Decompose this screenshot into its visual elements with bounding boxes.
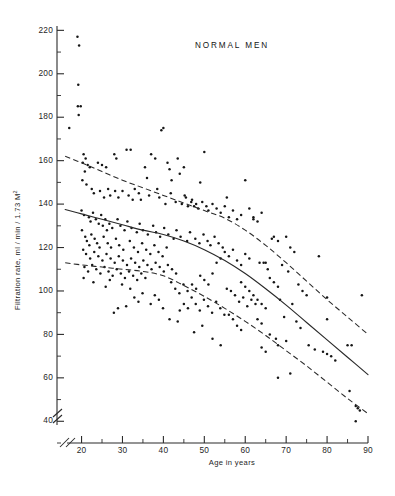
data-point bbox=[195, 288, 198, 291]
data-point bbox=[105, 253, 108, 256]
data-point bbox=[84, 235, 87, 238]
x-tick-label: 40 bbox=[159, 445, 169, 455]
data-point bbox=[84, 157, 87, 160]
data-point bbox=[154, 157, 157, 160]
data-point bbox=[354, 420, 357, 423]
y-tick-label: 180 bbox=[39, 111, 54, 121]
regression-curve-solid bbox=[65, 210, 368, 375]
data-point bbox=[78, 44, 81, 47]
data-point bbox=[266, 268, 269, 271]
data-point bbox=[299, 327, 302, 330]
data-point bbox=[277, 344, 280, 347]
data-point bbox=[281, 264, 284, 267]
data-point bbox=[138, 222, 141, 225]
data-point bbox=[264, 307, 267, 310]
data-point bbox=[275, 338, 278, 341]
data-point bbox=[242, 296, 245, 299]
data-point bbox=[193, 331, 196, 334]
data-point bbox=[99, 272, 102, 275]
data-point bbox=[199, 181, 202, 184]
data-point bbox=[293, 251, 296, 254]
data-point bbox=[93, 192, 96, 195]
data-point bbox=[248, 207, 251, 210]
data-point bbox=[111, 275, 114, 278]
data-point bbox=[149, 253, 152, 256]
data-point bbox=[168, 318, 171, 321]
data-point bbox=[244, 253, 247, 256]
data-point bbox=[162, 127, 165, 130]
data-point bbox=[209, 244, 212, 247]
data-point bbox=[221, 246, 224, 249]
data-point bbox=[226, 196, 229, 199]
regression-curve-dashed bbox=[65, 156, 368, 334]
data-point bbox=[285, 235, 288, 238]
data-point bbox=[330, 355, 333, 358]
data-point bbox=[125, 149, 128, 152]
data-point bbox=[100, 214, 103, 217]
data-point bbox=[273, 281, 276, 284]
data-point bbox=[248, 290, 251, 293]
data-point bbox=[154, 261, 157, 264]
data-point bbox=[137, 301, 140, 304]
data-point bbox=[301, 290, 304, 293]
data-point bbox=[206, 240, 209, 243]
data-point bbox=[314, 348, 317, 351]
data-point bbox=[203, 151, 206, 154]
data-point bbox=[145, 248, 148, 251]
data-point bbox=[102, 235, 105, 238]
data-point bbox=[158, 298, 161, 301]
data-point bbox=[147, 233, 150, 236]
data-point bbox=[236, 259, 239, 262]
regression-curve-dashed bbox=[65, 263, 368, 414]
data-point bbox=[269, 333, 272, 336]
data-point bbox=[211, 272, 214, 275]
data-point bbox=[91, 188, 94, 191]
data-point bbox=[138, 192, 141, 195]
chart-title-group: NORMAL MEN bbox=[195, 41, 269, 50]
y-tick-label: 140 bbox=[39, 198, 54, 208]
data-point bbox=[190, 201, 193, 204]
data-point bbox=[167, 264, 170, 267]
data-point bbox=[194, 303, 197, 306]
data-point bbox=[176, 157, 179, 160]
data-point bbox=[86, 240, 89, 243]
data-point bbox=[244, 285, 247, 288]
data-point bbox=[217, 242, 220, 245]
data-point bbox=[174, 201, 177, 204]
data-point bbox=[203, 279, 206, 282]
scatter-plot: NORMAL MEN 40608010012014016018020022020… bbox=[0, 0, 395, 496]
data-point bbox=[201, 324, 204, 327]
data-point bbox=[148, 194, 151, 197]
data-point bbox=[246, 305, 249, 308]
data-point bbox=[111, 227, 114, 230]
data-point bbox=[101, 164, 104, 167]
data-point bbox=[226, 288, 229, 291]
data-point bbox=[207, 283, 210, 286]
data-point bbox=[211, 203, 214, 206]
data-point bbox=[175, 272, 178, 275]
data-point bbox=[191, 199, 194, 202]
data-point bbox=[273, 235, 276, 238]
data-point bbox=[133, 246, 136, 249]
data-point bbox=[289, 372, 292, 375]
data-point bbox=[141, 242, 144, 245]
data-point bbox=[127, 194, 130, 197]
x-tick-label: 80 bbox=[322, 445, 332, 455]
data-point bbox=[158, 196, 161, 199]
data-point bbox=[76, 36, 79, 39]
data-point bbox=[89, 220, 92, 223]
data-point bbox=[136, 231, 139, 234]
data-point bbox=[86, 164, 89, 167]
data-point bbox=[211, 338, 214, 341]
data-point bbox=[260, 303, 263, 306]
data-point bbox=[179, 172, 182, 175]
data-point bbox=[287, 270, 290, 273]
data-point bbox=[125, 305, 128, 308]
data-point bbox=[154, 294, 157, 297]
y-tick-label: 80 bbox=[43, 329, 53, 339]
data-point bbox=[234, 294, 237, 297]
data-point bbox=[97, 162, 100, 165]
data-point bbox=[129, 288, 132, 291]
data-point bbox=[240, 264, 243, 267]
data-point bbox=[207, 305, 210, 308]
